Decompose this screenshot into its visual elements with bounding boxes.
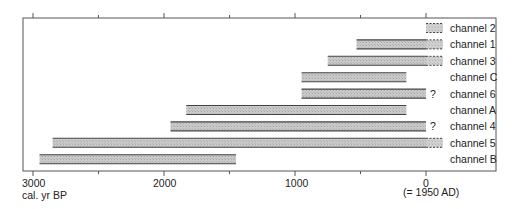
channel-label: channel 1 (450, 38, 496, 50)
bar-channel-2: channel 2 (426, 22, 496, 34)
channel-label: channel 3 (450, 55, 496, 67)
x-axis-unit-label: cal. yr BP (22, 189, 67, 201)
channel-label: channel 4 (450, 120, 496, 132)
x-axis-note: (= 1950 AD) (403, 186, 459, 198)
bar-channel-5: channel 5 (53, 137, 496, 149)
top-axis-ticks (33, 13, 426, 18)
channel-label: channel 5 (450, 137, 496, 149)
channel-chronology-chart: channel 2channel 1channel 3channel C?cha… (0, 0, 519, 209)
bar-channel-4: ?channel 4 (171, 120, 496, 132)
tick-label-3000: 3000 (22, 177, 46, 189)
bar-channel-1: channel 1 (357, 38, 496, 50)
bottom-axis-ticks (33, 171, 426, 176)
channel-label: channel B (450, 153, 497, 165)
channel-label: channel A (450, 104, 496, 116)
channel-label: channel C (450, 71, 498, 83)
uncertain-mark: ? (430, 120, 436, 132)
bars-layer: channel 2channel 1channel 3channel C?cha… (40, 22, 498, 165)
bar-channel-B: channel B (40, 153, 497, 165)
uncertain-mark: ? (430, 88, 436, 100)
bar-channel-3: channel 3 (328, 55, 496, 67)
channel-label: channel 2 (450, 22, 496, 34)
x-axis-labels: 3000 cal. yr BP 2000 1000 0 (= 1950 AD) (22, 177, 459, 201)
tick-label-2000: 2000 (153, 177, 177, 189)
channel-label: channel 6 (450, 88, 496, 100)
tick-label-1000: 1000 (285, 177, 309, 189)
bar-channel-6: ?channel 6 (302, 88, 496, 100)
bar-channel-C: channel C (302, 71, 498, 83)
bar-channel-A: channel A (186, 104, 496, 116)
